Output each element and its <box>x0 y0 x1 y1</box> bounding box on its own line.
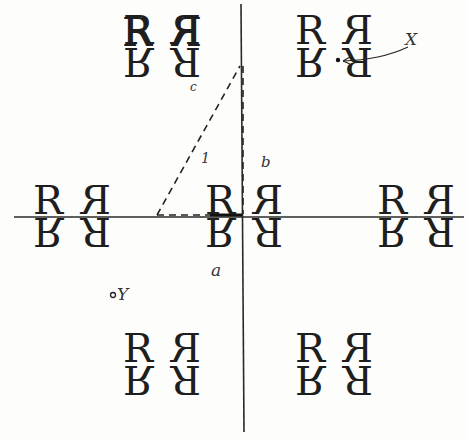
point-x <box>336 58 340 62</box>
motif-center <box>205 177 283 255</box>
label-y: Y <box>117 284 130 304</box>
motif-mid-right <box>377 177 455 255</box>
lattice-diagram: R R R R R R c 1 b a X Y <box>0 0 469 439</box>
motif-top-right <box>295 7 373 85</box>
motif-bottom-left <box>123 325 201 403</box>
motif-mid-left <box>33 177 111 255</box>
motif-top-left <box>123 7 201 85</box>
label-x: X <box>403 29 418 49</box>
motif-bottom-right <box>295 325 373 403</box>
label-1: 1 <box>201 150 210 166</box>
label-c: c <box>190 80 197 94</box>
label-b: b <box>261 153 271 171</box>
point-y <box>111 293 116 298</box>
label-a: a <box>211 260 221 280</box>
caption-fragment <box>90 433 450 439</box>
